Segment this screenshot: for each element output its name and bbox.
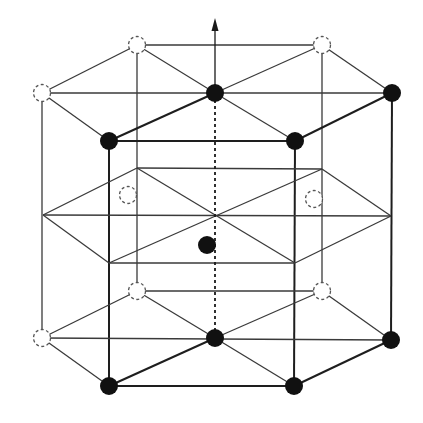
atom-m-left-hidden — [120, 187, 137, 204]
atom-t-front-left-filled — [100, 132, 118, 150]
atom-b-back-left-hidden — [129, 283, 146, 300]
atom-t-front-right-filled — [286, 132, 304, 150]
atom-b-left-hidden — [34, 330, 51, 347]
atom-m-center-filled — [198, 236, 216, 254]
arrow-up-icon — [212, 18, 219, 31]
atom-b-right-filled — [382, 331, 400, 349]
atom-b-front-left-filled — [100, 377, 118, 395]
atom-t-back-left-hidden — [129, 37, 146, 54]
atom-t-back-right-hidden — [314, 37, 331, 54]
atom-t-right-filled — [383, 84, 401, 102]
atom-b-center-filled — [206, 329, 224, 347]
middle-plane — [43, 168, 391, 263]
atom-b-front-right-filled — [285, 377, 303, 395]
c-axis — [212, 18, 219, 338]
atom-m-right-hidden — [306, 191, 323, 208]
atom-t-center-filled — [206, 84, 224, 102]
atom-t-left-hidden — [34, 85, 51, 102]
hcp-lattice-diagram — [0, 0, 423, 423]
atom-b-back-right-hidden — [314, 283, 331, 300]
